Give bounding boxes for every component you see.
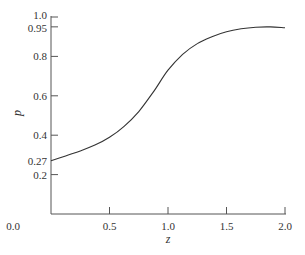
y-tick-label: 1.0 — [33, 9, 47, 21]
y-tick-label: 0.8 — [33, 50, 47, 62]
y-axis-title: p — [10, 110, 24, 117]
x-axis-title: z — [165, 232, 171, 246]
x-tick-label: 1.5 — [220, 220, 234, 232]
data-line-p — [51, 27, 285, 161]
line-chart: 0.00.20.270.40.60.80.951.0 0.51.01.52.0 … — [0, 0, 305, 255]
y-tick-label: 0.2 — [33, 169, 47, 181]
x-axis: 0.51.01.52.0 — [51, 207, 292, 232]
y-tick-label: 0.4 — [33, 129, 47, 141]
y-tick-label: 0.95 — [28, 22, 48, 34]
y-tick-label: 0.6 — [33, 90, 47, 102]
x-tick-label: 1.0 — [161, 220, 175, 232]
y-tick-label: 0.27 — [28, 155, 48, 167]
y-axis: 0.00.20.270.40.60.80.951.0 — [6, 9, 58, 232]
x-tick-label: 2.0 — [278, 220, 292, 232]
y-tick-label: 0.0 — [6, 220, 20, 232]
x-tick-label: 0.5 — [103, 220, 117, 232]
